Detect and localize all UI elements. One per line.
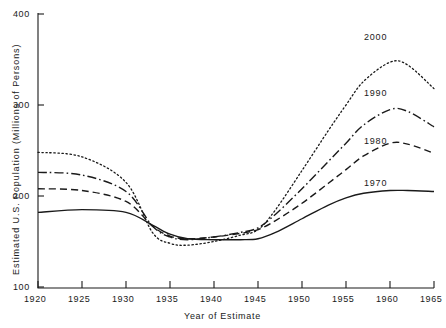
y-tick-label-400: 400 <box>13 9 30 19</box>
x-tick-label-1925: 1925 <box>68 294 90 304</box>
series-curve-1970 <box>38 190 434 239</box>
y-axis-ticks <box>38 14 44 287</box>
x-tick-label-1930: 1930 <box>112 294 134 304</box>
x-tick-label-1945: 1945 <box>244 294 266 304</box>
x-tick-label-1965: 1965 <box>420 294 442 304</box>
series-curve-1990 <box>38 108 434 239</box>
x-tick-label-1955: 1955 <box>332 294 354 304</box>
x-axis-ticks <box>38 281 434 288</box>
x-axis-title: Year of Estimate <box>184 311 261 321</box>
x-tick-label-1940: 1940 <box>200 294 222 304</box>
y-tick-label-100: 100 <box>13 282 30 292</box>
series-label-1980: 1980 <box>364 136 387 146</box>
series-label-2000: 2000 <box>364 32 387 42</box>
x-tick-label-1935: 1935 <box>156 294 178 304</box>
x-tick-label-1960: 1960 <box>376 294 398 304</box>
series-label-1990: 1990 <box>364 88 387 98</box>
chart-plot-area <box>0 0 446 328</box>
x-tick-label-1950: 1950 <box>288 294 310 304</box>
y-axis-title: Estimated U.S. Population (Millions of P… <box>11 44 21 275</box>
series-curve-1980 <box>38 142 434 239</box>
chart-figure: 400 300 200 100 1920 1925 1930 1935 1940… <box>0 0 446 328</box>
series-label-1970: 1970 <box>364 178 387 188</box>
x-tick-label-1920: 1920 <box>24 294 46 304</box>
